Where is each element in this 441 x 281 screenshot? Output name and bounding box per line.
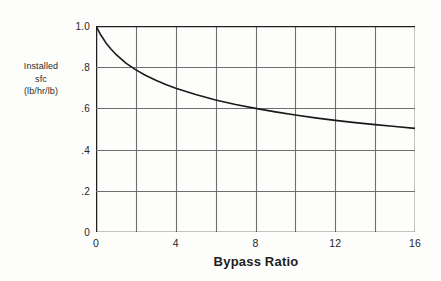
y-tick-label-.6: .6 [64, 103, 90, 114]
x-tick-label-16: 16 [400, 237, 430, 249]
plot-background [96, 26, 415, 232]
plot-area [96, 26, 415, 232]
plot-svg [96, 26, 415, 232]
x-axis-title: Bypass Ratio [96, 254, 416, 269]
y-tick-label-.8: .8 [64, 62, 90, 73]
y-axis-tick-labels: 1.0.8.6.4.20 [60, 26, 90, 232]
x-tick-label-0: 0 [81, 237, 111, 249]
chart-figure: Installed sfc (lb/hr/lb) 1.0.8.6.4.20 04… [0, 0, 441, 281]
x-tick-label-8: 8 [241, 237, 271, 249]
y-tick-label-1.0: 1.0 [64, 21, 90, 32]
x-tick-label-4: 4 [161, 237, 191, 249]
y-tick-label-.4: .4 [64, 144, 90, 155]
x-axis-tick-labels: 0481216 [96, 237, 415, 253]
x-tick-label-12: 12 [320, 237, 350, 249]
y-tick-label-0: 0 [64, 227, 90, 238]
y-tick-label-.2: .2 [64, 185, 90, 196]
